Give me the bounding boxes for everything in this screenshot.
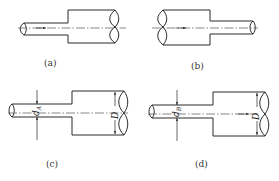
diameter-label-D: D bbox=[110, 112, 120, 120]
panel-d: dB D (d) bbox=[148, 90, 269, 169]
pipe-break-icon bbox=[9, 104, 14, 117]
diameter-label-dB: dB bbox=[171, 106, 182, 117]
diameter-label-dA: dA bbox=[31, 105, 42, 116]
pipe-break-icon bbox=[250, 21, 255, 34]
svg-text:dB: dB bbox=[171, 106, 182, 117]
svg-text:dA: dA bbox=[31, 105, 42, 116]
caption-b: (b) bbox=[191, 61, 204, 71]
pipe-break-icon bbox=[260, 92, 269, 136]
pipe-break-icon bbox=[158, 10, 167, 45]
caption-a: (a) bbox=[44, 58, 56, 68]
diameter-label-D: D bbox=[251, 113, 261, 121]
caption-c: (c) bbox=[46, 159, 58, 169]
panel-a: (a) bbox=[18, 10, 126, 68]
svg-text:D: D bbox=[251, 113, 261, 121]
caption-d: (d) bbox=[195, 159, 208, 169]
pipe-break-icon bbox=[110, 10, 119, 43]
panel-c: dA D (c) bbox=[8, 90, 128, 169]
svg-text:D: D bbox=[110, 112, 120, 120]
pipe-diagram: (a) (b) dA D (c) bbox=[0, 0, 279, 181]
panel-b: (b) bbox=[152, 10, 258, 71]
pipe-break-icon bbox=[149, 105, 154, 118]
pipe-break-icon bbox=[20, 23, 26, 35]
